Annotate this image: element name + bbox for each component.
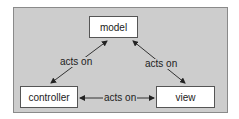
node-model-label: model — [100, 22, 127, 33]
node-model: model — [89, 16, 138, 38]
node-view-label: view — [175, 92, 195, 103]
edge-label-model-view: acts on — [144, 59, 178, 69]
edge-label-controller-view: acts on — [103, 93, 137, 103]
node-controller-label: controller — [28, 92, 69, 103]
edge-label-controller-model: acts on — [59, 57, 93, 67]
node-controller: controller — [20, 86, 78, 108]
node-view: view — [156, 86, 215, 108]
